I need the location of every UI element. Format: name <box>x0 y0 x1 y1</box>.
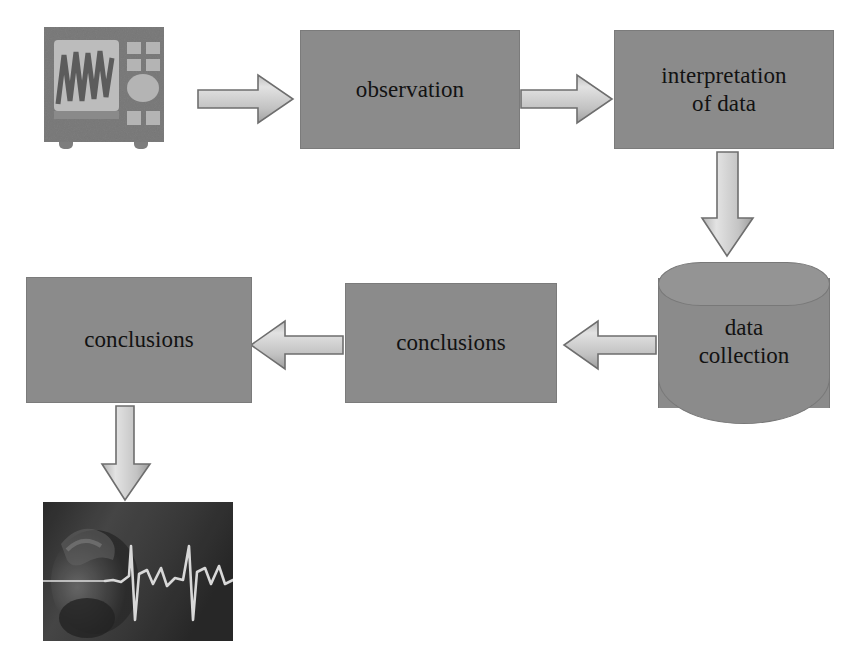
node-observation-label: observation <box>356 76 464 103</box>
node-data-collection[interactable]: data collection <box>658 262 830 424</box>
arrow-left-icon <box>249 317 345 373</box>
node-interpretation-of-data[interactable]: interpretation of data <box>614 30 834 149</box>
oscilloscope-icon <box>42 25 166 156</box>
arrow-down-icon <box>699 150 757 260</box>
arrow-interpretation-to-data-collection <box>699 150 757 260</box>
arrow-data-collection-to-conclusions <box>562 317 658 373</box>
cylinder-top <box>658 262 830 306</box>
node-observation[interactable]: observation <box>300 30 520 149</box>
node-conclusions-middle-label: conclusions <box>396 329 506 356</box>
node-conclusions-middle[interactable]: conclusions <box>345 283 557 403</box>
arrow-left-icon <box>562 317 658 373</box>
diagram-canvas: observation interpretation of data <box>0 0 852 661</box>
arrow-right-icon <box>519 70 615 128</box>
node-conclusions-left[interactable]: conclusions <box>26 277 252 403</box>
node-interpretation-label: interpretation of data <box>661 62 786 116</box>
arrow-down-icon <box>100 404 154 504</box>
cylinder-bottom <box>658 378 830 424</box>
arrow-oscilloscope-to-observation <box>196 70 296 128</box>
arrow-conclusions-to-conclusions <box>249 317 345 373</box>
arrow-right-icon <box>196 70 296 128</box>
arrow-observation-to-interpretation <box>519 70 615 128</box>
node-conclusions-left-label: conclusions <box>84 326 194 353</box>
arrow-conclusions-to-ecg-photo <box>100 404 154 504</box>
ecg-photo-svg <box>43 502 233 641</box>
ecg-photo <box>43 502 233 641</box>
node-data-collection-label: data collection <box>658 314 830 369</box>
oscilloscope-svg <box>42 25 166 156</box>
